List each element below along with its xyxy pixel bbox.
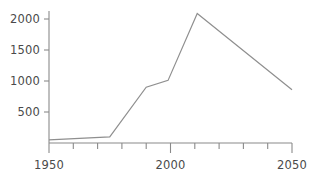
y-tick-label-500: 500 — [17, 105, 40, 119]
y-tick-label-1500: 1500 — [10, 43, 40, 57]
y-tick-label-2000: 2000 — [10, 12, 40, 26]
x-tick-label-2050: 2050 — [277, 158, 307, 172]
data-series-1 — [49, 13, 292, 139]
line-chart: 500100015002000195020002050 — [0, 0, 318, 183]
chart-canvas: 500100015002000195020002050 — [0, 0, 318, 183]
y-tick-label-1000: 1000 — [10, 74, 40, 88]
x-tick-label-2000: 2000 — [155, 158, 185, 172]
x-tick-label-1950: 1950 — [34, 158, 64, 172]
